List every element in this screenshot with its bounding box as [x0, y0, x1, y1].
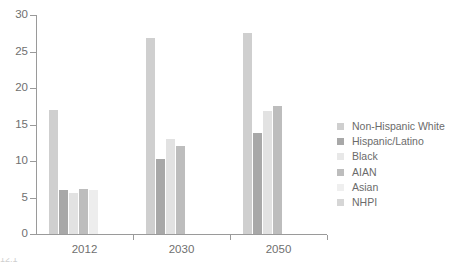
legend-swatch-icon: [337, 184, 344, 191]
legend-swatch-icon: [337, 138, 344, 145]
bar[interactable]: [273, 106, 282, 234]
legend-item[interactable]: AIAN: [337, 165, 461, 180]
x-axis-tick: [327, 235, 328, 240]
legend-item[interactable]: Hispanic/Latino: [337, 134, 461, 149]
legend-item[interactable]: Black: [337, 149, 461, 164]
legend: Non-Hispanic WhiteHispanic/LatinoBlackAI…: [337, 119, 461, 210]
legend-item[interactable]: NHPI: [337, 195, 461, 210]
x-axis-tick: [133, 235, 134, 240]
y-axis-tick-label-text: 20: [2, 82, 28, 93]
y-axis-tick-label-text: 5: [2, 192, 28, 203]
clipped-bottom-artifact: 12.1: [0, 258, 463, 263]
bar[interactable]: [59, 190, 68, 234]
y-axis-tick-label-text: 25: [2, 46, 28, 57]
x-axis-group-label: 2030: [133, 243, 230, 255]
y-axis-tick-label-text: 10: [2, 155, 28, 166]
bar[interactable]: [263, 111, 272, 234]
legend-swatch-icon: [337, 153, 344, 160]
bar-group: [243, 15, 302, 234]
legend-swatch-icon: [337, 123, 344, 130]
legend-item[interactable]: Non-Hispanic White: [337, 119, 461, 134]
bar-chart: 051015202530 201220302050 Non-Hispanic W…: [0, 0, 463, 263]
bar[interactable]: [69, 193, 78, 234]
bar[interactable]: [176, 146, 185, 234]
bar-group: [146, 15, 205, 234]
x-axis-group-label: 2050: [230, 243, 327, 255]
bar[interactable]: [166, 139, 175, 234]
bar[interactable]: [89, 190, 98, 234]
x-axis-line: [36, 234, 327, 235]
bar[interactable]: [79, 189, 88, 234]
bar[interactable]: [253, 133, 262, 234]
x-axis-tick: [230, 235, 231, 240]
bar-group: [49, 15, 108, 234]
bar[interactable]: [49, 110, 58, 234]
y-axis-tick-label: 20: [0, 82, 28, 93]
y-axis-tick-label: 0: [0, 228, 28, 239]
plot-area: [36, 15, 327, 234]
legend-swatch-icon: [337, 169, 344, 176]
legend-item-label: Hispanic/Latino: [352, 134, 424, 149]
y-axis-tick-label-text: 15: [2, 119, 28, 130]
y-axis-tick-label: 10: [0, 155, 28, 166]
legend-item[interactable]: Asian: [337, 180, 461, 195]
legend-item-label: Black: [352, 149, 378, 164]
legend-swatch-icon: [337, 199, 344, 206]
bar[interactable]: [156, 159, 165, 234]
y-axis-tick-label: 15: [0, 119, 28, 130]
x-axis-group-label: 2012: [36, 243, 133, 255]
y-axis-tick-label-text: 0: [2, 228, 28, 239]
clipped-bottom-text: 12.1: [0, 258, 18, 263]
legend-item-label: AIAN: [352, 165, 377, 180]
y-axis-tick-label: 25: [0, 46, 28, 57]
bar[interactable]: [146, 38, 155, 234]
y-axis-tick-label: 5: [0, 192, 28, 203]
legend-item-label: Non-Hispanic White: [352, 119, 445, 134]
legend-item-label: Asian: [352, 180, 378, 195]
y-axis-tick-label-text: 30: [2, 9, 28, 20]
bar[interactable]: [243, 33, 252, 234]
y-axis-tick-label: 30: [0, 9, 28, 20]
legend-item-label: NHPI: [352, 195, 377, 210]
